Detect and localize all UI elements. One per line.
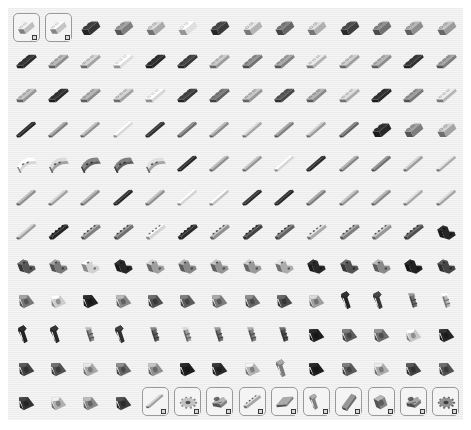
part-thumbnail[interactable]	[365, 249, 397, 283]
part-thumbnail-framed[interactable]	[268, 385, 300, 419]
part-thumbnail[interactable]	[430, 45, 462, 79]
part-thumbnail[interactable]	[75, 11, 107, 45]
part-thumbnail[interactable]	[268, 11, 300, 45]
part-thumbnail[interactable]	[42, 249, 74, 283]
part-thumbnail[interactable]	[365, 283, 397, 317]
part-thumbnail[interactable]	[42, 283, 74, 317]
part-thumbnail[interactable]	[236, 215, 268, 249]
part-thumbnail-framed[interactable]	[139, 385, 171, 419]
part-thumbnail[interactable]	[333, 11, 365, 45]
part-thumbnail[interactable]	[107, 249, 139, 283]
part-thumbnail[interactable]	[107, 385, 139, 419]
part-thumbnail[interactable]	[430, 215, 462, 249]
part-thumbnail[interactable]	[365, 79, 397, 113]
part-thumbnail[interactable]	[139, 283, 171, 317]
part-thumbnail[interactable]	[236, 283, 268, 317]
part-thumbnail[interactable]	[42, 385, 74, 419]
part-thumbnail[interactable]	[204, 215, 236, 249]
part-thumbnail[interactable]	[171, 249, 203, 283]
part-thumbnail[interactable]	[236, 351, 268, 385]
part-thumbnail[interactable]	[333, 181, 365, 215]
part-thumbnail[interactable]	[204, 283, 236, 317]
part-thumbnail[interactable]	[301, 317, 333, 351]
part-thumbnail[interactable]	[204, 249, 236, 283]
part-thumbnail[interactable]	[107, 45, 139, 79]
part-thumbnail[interactable]	[430, 249, 462, 283]
part-thumbnail[interactable]	[139, 351, 171, 385]
part-thumbnail[interactable]	[268, 317, 300, 351]
part-thumbnail[interactable]	[301, 147, 333, 181]
part-thumbnail-framed[interactable]	[236, 385, 268, 419]
part-thumbnail[interactable]	[333, 79, 365, 113]
part-thumbnail[interactable]	[430, 283, 462, 317]
part-thumbnail[interactable]	[204, 113, 236, 147]
part-thumbnail[interactable]	[75, 147, 107, 181]
part-thumbnail[interactable]	[107, 181, 139, 215]
part-thumbnail[interactable]	[236, 317, 268, 351]
part-thumbnail[interactable]	[268, 249, 300, 283]
part-thumbnail[interactable]	[171, 181, 203, 215]
part-thumbnail[interactable]	[107, 113, 139, 147]
part-thumbnail[interactable]	[75, 215, 107, 249]
part-thumbnail[interactable]	[204, 317, 236, 351]
part-thumbnail[interactable]	[365, 147, 397, 181]
part-thumbnail[interactable]	[42, 113, 74, 147]
part-thumbnail-framed[interactable]	[42, 11, 74, 45]
part-thumbnail[interactable]	[301, 181, 333, 215]
part-thumbnail[interactable]	[107, 215, 139, 249]
part-thumbnail[interactable]	[333, 249, 365, 283]
part-thumbnail[interactable]	[139, 147, 171, 181]
part-thumbnail[interactable]	[301, 113, 333, 147]
part-thumbnail[interactable]	[398, 181, 430, 215]
part-thumbnail[interactable]	[301, 283, 333, 317]
part-thumbnail[interactable]	[430, 113, 462, 147]
part-thumbnail[interactable]	[236, 249, 268, 283]
part-thumbnail[interactable]	[365, 181, 397, 215]
part-thumbnail[interactable]	[139, 79, 171, 113]
part-thumbnail[interactable]	[107, 11, 139, 45]
part-thumbnail[interactable]	[204, 11, 236, 45]
part-thumbnail[interactable]	[10, 215, 42, 249]
part-thumbnail[interactable]	[236, 113, 268, 147]
part-thumbnail[interactable]	[268, 147, 300, 181]
part-thumbnail[interactable]	[204, 45, 236, 79]
part-thumbnail[interactable]	[42, 215, 74, 249]
part-thumbnail[interactable]	[268, 181, 300, 215]
part-thumbnail-grid[interactable]	[10, 11, 461, 419]
part-thumbnail[interactable]	[10, 45, 42, 79]
part-thumbnail[interactable]	[75, 181, 107, 215]
part-thumbnail[interactable]	[398, 317, 430, 351]
part-thumbnail[interactable]	[365, 45, 397, 79]
part-thumbnail[interactable]	[75, 351, 107, 385]
part-thumbnail[interactable]	[139, 11, 171, 45]
part-thumbnail[interactable]	[10, 385, 42, 419]
part-thumbnail[interactable]	[333, 147, 365, 181]
part-thumbnail[interactable]	[398, 11, 430, 45]
part-thumbnail[interactable]	[10, 79, 42, 113]
part-thumbnail[interactable]	[107, 283, 139, 317]
part-thumbnail[interactable]	[301, 249, 333, 283]
part-thumbnail[interactable]	[398, 79, 430, 113]
part-thumbnail[interactable]	[268, 283, 300, 317]
part-thumbnail[interactable]	[171, 45, 203, 79]
part-thumbnail[interactable]	[268, 215, 300, 249]
part-thumbnail-framed[interactable]	[171, 385, 203, 419]
part-thumbnail[interactable]	[107, 147, 139, 181]
part-thumbnail[interactable]	[204, 351, 236, 385]
part-thumbnail[interactable]	[139, 181, 171, 215]
part-thumbnail[interactable]	[236, 147, 268, 181]
part-thumbnail-framed[interactable]	[430, 385, 462, 419]
part-thumbnail[interactable]	[333, 351, 365, 385]
part-thumbnail[interactable]	[398, 113, 430, 147]
part-thumbnail[interactable]	[301, 215, 333, 249]
part-thumbnail[interactable]	[10, 317, 42, 351]
part-thumbnail[interactable]	[42, 147, 74, 181]
part-thumbnail[interactable]	[75, 79, 107, 113]
part-thumbnail[interactable]	[365, 11, 397, 45]
part-thumbnail[interactable]	[42, 79, 74, 113]
part-thumbnail[interactable]	[236, 45, 268, 79]
part-thumbnail[interactable]	[398, 215, 430, 249]
part-thumbnail[interactable]	[10, 249, 42, 283]
part-thumbnail[interactable]	[139, 45, 171, 79]
part-thumbnail[interactable]	[204, 181, 236, 215]
